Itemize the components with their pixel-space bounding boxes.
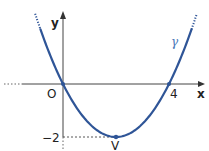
curve-dotted-end-left [35,14,40,30]
curve-dotted-end-right [192,14,197,30]
x-tick-label: 4 [170,87,178,101]
origin-label: O [47,87,56,101]
root-point-4 [167,82,171,86]
vertex-label: V [111,139,120,151]
y-axis-arrow-icon [60,11,66,19]
parabola-diagram: y x O 4 −2 V γ [0,0,209,151]
y-tick-label: −2 [42,131,60,145]
origin-point [61,82,65,86]
curve-label: γ [171,35,179,49]
x-axis-label: x [197,87,205,101]
y-axis-label: y [51,16,59,30]
